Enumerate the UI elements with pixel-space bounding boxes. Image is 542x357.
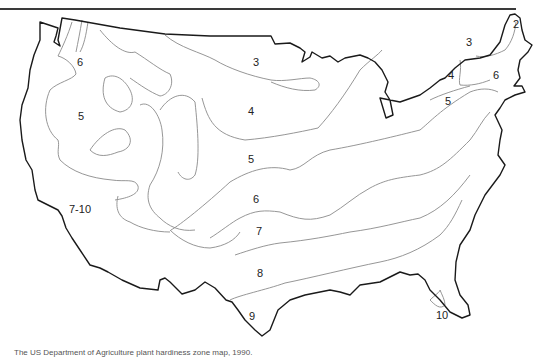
zone-label: 3 <box>466 37 472 48</box>
zone-label: 6 <box>493 70 499 81</box>
zone-label: 4 <box>248 106 254 117</box>
zone-label: 6 <box>77 57 83 68</box>
zone-label: 5 <box>445 96 451 107</box>
zone-label: 2 <box>513 19 519 30</box>
us-outline <box>20 14 532 336</box>
zone-label: 7-10 <box>69 204 91 215</box>
zone-label: 4 <box>448 70 454 81</box>
zone-label: 9 <box>249 311 255 322</box>
zone-label: 5 <box>78 111 84 122</box>
zone-label: 5 <box>248 154 254 165</box>
zone-label: 3 <box>253 57 259 68</box>
zone-label: 7 <box>256 226 262 237</box>
zone-label: 8 <box>257 268 263 279</box>
zone-label: 6 <box>253 194 259 205</box>
map-caption: The US Department of Agriculture plant h… <box>14 348 252 357</box>
zone-contours <box>46 20 516 307</box>
zone-label: 10 <box>436 310 448 321</box>
